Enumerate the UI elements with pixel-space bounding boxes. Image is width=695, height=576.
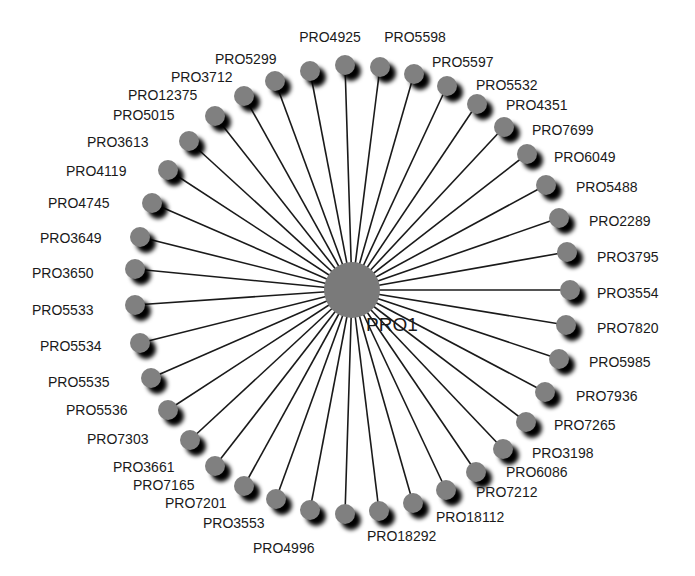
network-node[interactable] [560, 280, 586, 306]
node-circle [125, 295, 145, 315]
network-node[interactable] [549, 349, 575, 375]
node-circle [549, 208, 569, 228]
node-label: PRO3198 [532, 446, 593, 460]
center-node-label: PRO1 [366, 315, 418, 334]
node-label: PRO3553 [203, 516, 264, 530]
node-circle [158, 400, 178, 420]
network-node[interactable] [125, 295, 151, 321]
network-node[interactable] [517, 144, 543, 170]
node-circle [300, 61, 320, 81]
node-circle [142, 193, 162, 213]
edge [168, 290, 352, 410]
network-node[interactable] [300, 61, 326, 87]
edge [275, 81, 352, 290]
network-node[interactable] [516, 412, 542, 438]
network-node[interactable] [205, 456, 231, 482]
node-circle [130, 333, 150, 353]
edge [352, 290, 526, 422]
network-node[interactable] [265, 71, 291, 97]
node-label: PRO5488 [576, 180, 637, 194]
network-node[interactable] [369, 501, 395, 527]
node-label: PRO7265 [554, 418, 615, 432]
node-circle [158, 160, 178, 180]
network-node[interactable] [179, 131, 205, 157]
network-node[interactable] [158, 160, 184, 186]
network-node[interactable] [404, 64, 430, 90]
node-label: PRO5533 [32, 303, 93, 317]
network-node[interactable] [556, 315, 582, 341]
network-node[interactable] [535, 382, 561, 408]
node-circle [467, 94, 487, 114]
network-node[interactable] [549, 208, 575, 234]
network-node[interactable] [403, 493, 429, 519]
network-node[interactable] [436, 480, 462, 506]
network-node[interactable] [467, 94, 493, 120]
edge [352, 252, 567, 290]
node-circle [335, 504, 355, 524]
network-node[interactable] [493, 439, 519, 465]
node-circle [335, 55, 355, 75]
node-circle [536, 175, 556, 195]
network-node[interactable] [130, 333, 156, 359]
node-circle [535, 382, 555, 402]
network-node[interactable] [180, 430, 206, 456]
network-node[interactable] [158, 400, 184, 426]
node-label: PRO6086 [506, 465, 567, 479]
network-node[interactable] [335, 504, 361, 530]
edge [140, 237, 352, 290]
network-node[interactable] [266, 489, 292, 515]
edge [352, 86, 447, 290]
network-node[interactable] [130, 227, 156, 253]
edge [135, 269, 352, 290]
node-label: PRO3554 [597, 286, 658, 300]
node-circle [549, 349, 569, 369]
node-label: PRO5299 [215, 52, 276, 66]
network-diagram [0, 0, 695, 576]
node-label: PRO7699 [532, 123, 593, 137]
network-node[interactable] [370, 57, 396, 83]
edge [352, 185, 546, 290]
center-node[interactable] [324, 262, 380, 318]
node-circle [403, 493, 423, 513]
node-circle [179, 131, 199, 151]
node-label: PRO5536 [66, 403, 127, 417]
node-label: PRO3661 [113, 460, 174, 474]
network-node[interactable] [494, 117, 520, 143]
node-label: PRO3795 [597, 250, 658, 264]
node-circle [466, 462, 486, 482]
node-label: PRO5532 [476, 78, 537, 92]
node-circle [265, 71, 285, 91]
node-label: PRO18292 [367, 529, 436, 543]
node-label: PRO4925 [299, 30, 360, 44]
network-node[interactable] [234, 86, 260, 112]
network-node[interactable] [536, 175, 562, 201]
node-circle [556, 315, 576, 335]
network-node[interactable] [205, 106, 231, 132]
node-circle [300, 500, 320, 520]
node-circle [205, 456, 225, 476]
network-node[interactable] [125, 259, 151, 285]
node-label: PRO5534 [40, 339, 101, 353]
edge [352, 104, 477, 290]
network-node[interactable] [234, 476, 260, 502]
network-node[interactable] [142, 193, 168, 219]
node-label: PRO5985 [589, 355, 650, 369]
node-label: PRO4745 [48, 196, 109, 210]
edge [276, 290, 352, 499]
node-label: PRO7303 [87, 432, 148, 446]
network-node[interactable] [335, 55, 361, 81]
network-node[interactable] [300, 500, 326, 526]
node-label: PRO4996 [253, 541, 314, 555]
node-label: PRO4351 [506, 98, 567, 112]
node-circle [436, 480, 456, 500]
node-label: PRO5598 [384, 30, 445, 44]
edge [244, 96, 352, 290]
node-label: PRO18112 [436, 510, 504, 524]
node-label: PRO4119 [66, 164, 126, 178]
node-label: PRO7165 [133, 478, 194, 492]
center-node-circle [324, 262, 380, 318]
edge [152, 203, 352, 290]
node-circle [266, 489, 286, 509]
network-node[interactable] [557, 242, 583, 268]
node-label: PRO3650 [32, 266, 93, 280]
